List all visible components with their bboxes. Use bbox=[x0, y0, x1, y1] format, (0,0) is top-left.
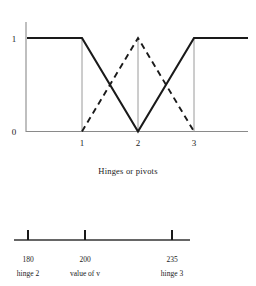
numberline-value-235: 235 bbox=[166, 255, 178, 264]
chart-caption: Hinges or pivots bbox=[0, 160, 256, 184]
chart-caption-text: Hinges or pivots bbox=[98, 166, 157, 176]
y-tick-label-1: 1 bbox=[12, 34, 17, 44]
numberline-label-hinge-2: hinge 2 bbox=[17, 269, 40, 278]
x-tick-label-2: 2 bbox=[136, 138, 141, 148]
numberline-label-hinge-3: hinge 3 bbox=[161, 269, 184, 278]
figure-root: 1 0 1 2 3 Hinges or pivots 180 hinge 2 2… bbox=[0, 0, 256, 286]
membership-function-chart: 1 0 1 2 3 bbox=[0, 0, 256, 160]
y-tick-label-0: 0 bbox=[12, 127, 17, 137]
x-tick-label-1: 1 bbox=[80, 138, 85, 148]
numberline-panel: 180 hinge 2 200 value of v 235 hinge 3 bbox=[0, 200, 256, 286]
numberline-label-value-of-v: value of v bbox=[70, 269, 100, 278]
chart-svg: 1 0 1 2 3 bbox=[0, 0, 256, 160]
numberline-value-200: 200 bbox=[79, 255, 91, 264]
numberline-svg: 180 hinge 2 200 value of v 235 hinge 3 bbox=[0, 200, 256, 286]
numberline-value-180: 180 bbox=[22, 255, 34, 264]
x-tick-label-3: 3 bbox=[192, 138, 197, 148]
